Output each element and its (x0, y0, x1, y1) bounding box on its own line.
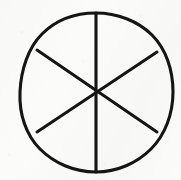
fraction-circle-figure: Circle divided into six equal sectors A … (0, 0, 181, 180)
diagram-strokes (20, 13, 173, 172)
circle-sixths-diagram: Circle divided into six equal sectors A … (0, 0, 181, 180)
